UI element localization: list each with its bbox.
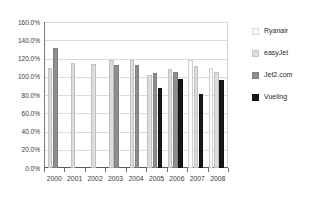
legend-swatch-icon [252, 28, 259, 35]
bar-vueling-2008 [219, 80, 224, 168]
bar-easyjet-2006 [168, 69, 173, 168]
y-axis-tick-label: 80.0% [0, 92, 40, 99]
bar-easyjet-2003 [109, 60, 114, 168]
legend-label: Jet2.com [264, 71, 292, 79]
x-axis-tick-label: 2006 [169, 174, 184, 183]
x-axis-tickmark [105, 168, 106, 172]
bar-ryanair-2008 [209, 68, 214, 168]
x-axis-tickmark [208, 168, 209, 172]
x-axis-tick-label: 2007 [190, 174, 205, 183]
bar-easyjet-2007 [194, 66, 199, 168]
y-axis-tick-label: 40.0% [0, 128, 40, 135]
bar-ryanair-2007 [188, 60, 193, 168]
bar-series-container [44, 22, 228, 168]
x-axis-tickmark [126, 168, 127, 172]
x-axis-tickmark [85, 168, 86, 172]
legend-item-ryanair[interactable]: Ryanair [252, 20, 328, 42]
x-axis-tick-label: 2000 [47, 174, 62, 183]
x-axis-tickmark [64, 168, 65, 172]
legend-label: Vueling [264, 93, 287, 101]
legend-swatch-icon [252, 72, 259, 79]
bar-jet2-2004 [135, 65, 140, 168]
y-axis-tick-label: 20.0% [0, 146, 40, 153]
bar-vueling-2006 [178, 79, 183, 168]
bar-jet2-2006 [173, 72, 178, 168]
legend-swatch-icon [252, 50, 259, 57]
bar-jet2-2005 [153, 73, 158, 168]
x-axis-labels: 200020012002200320042005200620072008 [0, 174, 330, 186]
y-axis-tick-label: 140.0% [0, 37, 40, 44]
bar-easyjet-2005 [147, 75, 152, 168]
legend-item-jet2[interactable]: Jet2.com [252, 64, 328, 86]
x-axis-tick-label: 2003 [108, 174, 123, 183]
legend-item-easyjet[interactable]: easyJet [252, 42, 328, 64]
chart-legend: RyanaireasyJetJet2.comVueling [252, 20, 328, 108]
bar-easyjet-2002 [91, 64, 96, 168]
x-axis-tick-label: 2008 [210, 174, 225, 183]
y-axis-tick-label: 120.0% [0, 55, 40, 62]
bar-vueling-2005 [158, 88, 163, 168]
x-axis-tick-label: 2004 [128, 174, 143, 183]
x-axis-tickmark [228, 168, 229, 172]
y-axis-tick-label: 160.0% [0, 19, 40, 26]
bar-vueling-2007 [199, 94, 204, 168]
bar-chart: 0.0%20.0%40.0%60.0%80.0%100.0%120.0%140.… [0, 0, 330, 200]
x-axis-tickmark [146, 168, 147, 172]
x-axis-tick-label: 2002 [88, 174, 103, 183]
x-axis-tickmark [187, 168, 188, 172]
legend-item-vueling[interactable]: Vueling [252, 86, 328, 108]
x-axis-tick-label: 2005 [149, 174, 164, 183]
legend-label: Ryanair [264, 27, 288, 35]
y-axis-tick-label: 0.0% [0, 165, 40, 172]
legend-label: easyJet [264, 49, 288, 57]
x-axis-tickmark [167, 168, 168, 172]
legend-swatch-icon [252, 94, 259, 101]
bar-easyjet-2000 [48, 68, 53, 168]
y-axis-tick-label: 100.0% [0, 73, 40, 80]
bar-easyjet-2001 [71, 63, 76, 168]
bar-easyjet-2004 [130, 60, 135, 168]
bar-jet2-2000 [53, 48, 58, 168]
bar-jet2-2003 [114, 65, 119, 168]
bar-easyjet-2008 [214, 72, 219, 168]
x-axis-tickmark [44, 168, 45, 172]
y-axis-tick-label: 60.0% [0, 110, 40, 117]
x-axis-tick-label: 2001 [67, 174, 82, 183]
